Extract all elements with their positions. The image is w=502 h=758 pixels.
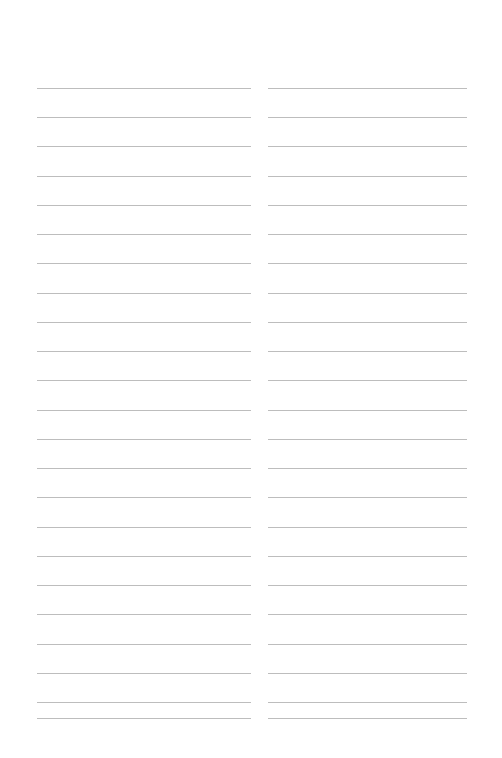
rule-line-left-22 xyxy=(37,702,251,703)
rule-line-right-3 xyxy=(268,146,467,147)
rule-line-right-6 xyxy=(268,234,467,235)
rule-line-left-23 xyxy=(37,718,251,719)
rule-line-right-4 xyxy=(268,176,467,177)
rule-line-right-8 xyxy=(268,293,467,294)
rule-line-right-21 xyxy=(268,673,467,674)
rule-line-right-1 xyxy=(268,88,467,89)
rule-line-right-7 xyxy=(268,263,467,264)
rule-line-right-12 xyxy=(268,410,467,411)
rule-line-left-11 xyxy=(37,380,251,381)
rule-line-right-5 xyxy=(268,205,467,206)
rule-line-right-2 xyxy=(268,117,467,118)
rule-line-left-1 xyxy=(37,88,251,89)
rule-line-right-11 xyxy=(268,380,467,381)
document-page: Blank Lined Note Page xyxy=(0,0,502,758)
rule-line-left-16 xyxy=(37,527,251,528)
rule-line-right-15 xyxy=(268,497,467,498)
rule-line-right-23 xyxy=(268,718,467,719)
rule-line-right-10 xyxy=(268,351,467,352)
rule-line-right-14 xyxy=(268,468,467,469)
rule-line-left-2 xyxy=(37,117,251,118)
rule-line-left-10 xyxy=(37,351,251,352)
rule-line-left-8 xyxy=(37,293,251,294)
rule-line-left-13 xyxy=(37,439,251,440)
text-column-right[interactable] xyxy=(268,0,467,758)
rule-line-left-19 xyxy=(37,614,251,615)
rule-line-right-19 xyxy=(268,614,467,615)
rule-line-left-20 xyxy=(37,644,251,645)
rule-line-left-12 xyxy=(37,410,251,411)
lined-columns-container xyxy=(0,0,502,758)
rule-line-left-18 xyxy=(37,585,251,586)
rule-line-left-9 xyxy=(37,322,251,323)
rule-line-right-18 xyxy=(268,585,467,586)
rule-line-right-22 xyxy=(268,702,467,703)
rule-line-right-16 xyxy=(268,527,467,528)
rule-line-left-17 xyxy=(37,556,251,557)
rule-line-left-5 xyxy=(37,205,251,206)
rule-line-right-17 xyxy=(268,556,467,557)
rule-line-right-9 xyxy=(268,322,467,323)
rule-line-left-15 xyxy=(37,497,251,498)
rule-line-left-4 xyxy=(37,176,251,177)
rule-line-right-13 xyxy=(268,439,467,440)
rule-line-left-14 xyxy=(37,468,251,469)
rule-line-left-3 xyxy=(37,146,251,147)
rule-line-left-7 xyxy=(37,263,251,264)
rule-line-right-20 xyxy=(268,644,467,645)
rule-line-left-6 xyxy=(37,234,251,235)
text-column-left[interactable] xyxy=(37,0,251,758)
rule-line-left-21 xyxy=(37,673,251,674)
